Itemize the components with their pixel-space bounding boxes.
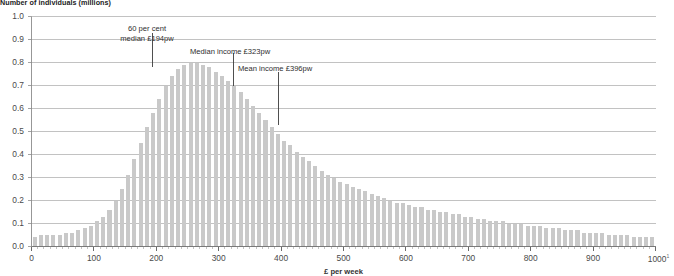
- y-axis-tick-label: 0.0: [0, 241, 24, 251]
- x-axis-tick-label: 10001: [639, 253, 674, 264]
- footnote-marker: 1: [666, 253, 669, 259]
- y-axis-tick-label: 0.4: [0, 149, 24, 159]
- x-axis-ticks: [32, 247, 656, 252]
- x-axis-tick-label: 0: [12, 253, 52, 263]
- annotation-median-income: Median income £323pw: [190, 47, 300, 57]
- y-axis-tick-label: 0.8: [0, 57, 24, 67]
- x-axis-tick-label: 500: [324, 253, 364, 263]
- annotation-mean-income: Mean income £396pw: [238, 64, 348, 74]
- gridlines: [32, 17, 656, 224]
- x-axis-tick-label: 200: [136, 253, 176, 263]
- y-axis-ticks: [28, 17, 32, 247]
- x-axis-tick-label: 600: [386, 253, 426, 263]
- y-axis-tick-label: 0.5: [0, 126, 24, 136]
- x-axis-tick-label: 900: [573, 253, 613, 263]
- x-axis-tick-label: 300: [199, 253, 239, 263]
- annotation-line-2: median £194pw: [108, 34, 186, 44]
- annotation-line-1: 60 per cent: [108, 24, 186, 34]
- y-axis-tick-label: 0.3: [0, 172, 24, 182]
- x-axis-tick-label: 100: [74, 253, 114, 263]
- y-axis-tick-label: 1.0: [0, 11, 24, 21]
- x-axis-tick-label: 700: [448, 253, 488, 263]
- y-axis-tick-label: 0.9: [0, 34, 24, 44]
- y-axis-tick-label: 0.7: [0, 80, 24, 90]
- annotation-line-1: Mean income £396pw: [238, 64, 348, 74]
- x-axis-tick-label-text: 1000: [648, 253, 667, 263]
- annotation-low-income-threshold: 60 per centmedian £194pw: [108, 24, 186, 43]
- x-axis-tick-label: 400: [261, 253, 301, 263]
- y-axis-tick-label: 0.2: [0, 195, 24, 205]
- y-axis-tick-label: 0.6: [0, 103, 24, 113]
- annotation-line-1: Median income £323pw: [190, 47, 300, 57]
- y-axis-tick-label: 0.1: [0, 218, 24, 228]
- x-axis-tick-label: 800: [511, 253, 551, 263]
- x-axis-title: £ per week: [284, 267, 404, 276]
